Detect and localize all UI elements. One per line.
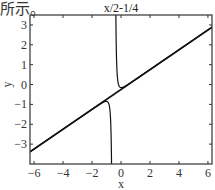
y-axis-label: y — [0, 82, 14, 88]
curve-left-branch — [30, 101, 113, 190]
x-tick-label: 6 — [205, 166, 211, 180]
y-tick-label: −3 — [14, 137, 27, 151]
y-tick-label: 1 — [21, 58, 27, 72]
x-tick-label: 2 — [147, 166, 153, 180]
chart-plot: −6−4−20246−3−2−10123xy — [0, 0, 215, 190]
y-tick-label: 3 — [21, 18, 27, 32]
y-tick-label: 0 — [21, 78, 27, 92]
curve-right-branch — [115, 0, 212, 88]
y-tick-label: −2 — [14, 117, 27, 131]
y-tick-label: 2 — [21, 38, 27, 52]
x-axis-label: x — [118, 177, 124, 190]
y-tick-label: −1 — [14, 97, 27, 111]
x-tick-label: −2 — [86, 166, 99, 180]
x-tick-label: 4 — [176, 166, 182, 180]
x-tick-label: −6 — [28, 166, 41, 180]
x-tick-label: −4 — [57, 166, 70, 180]
